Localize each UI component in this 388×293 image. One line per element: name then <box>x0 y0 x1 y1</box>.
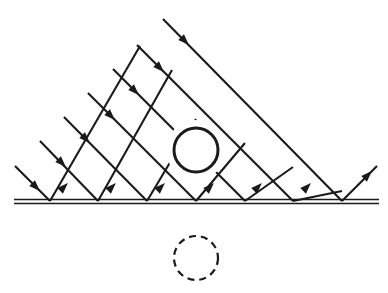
figure-background <box>0 0 388 293</box>
figure-root <box>0 0 388 293</box>
ray-reflection-diagram <box>0 0 388 293</box>
